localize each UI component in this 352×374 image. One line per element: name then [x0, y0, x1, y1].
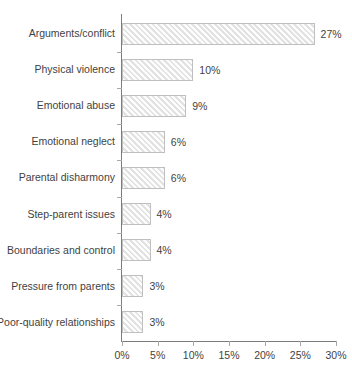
bar-value-label: 3% — [149, 311, 164, 333]
x-axis-tick-label: 30% — [325, 349, 346, 361]
x-axis-tick — [122, 341, 123, 346]
bar — [122, 95, 186, 117]
bar-container: 4% — [122, 203, 151, 225]
category-label: Pressure from parents — [11, 269, 115, 304]
category-label: Arguments/conflict — [29, 16, 115, 51]
x-axis-tick-label: 25% — [290, 349, 311, 361]
bar — [122, 59, 193, 81]
x-axis-tick — [193, 341, 194, 346]
y-axis-tick — [117, 52, 122, 53]
x-axis-tick-label: 20% — [254, 349, 275, 361]
y-axis-tick — [117, 305, 122, 306]
bar — [122, 167, 165, 189]
x-axis-tick — [265, 341, 266, 346]
bar-row: Parental disharmony6% — [122, 160, 336, 195]
category-label: Emotional abuse — [37, 88, 115, 123]
x-axis-tick-label: 5% — [150, 349, 165, 361]
plot-area: Arguments/conflict27%Physical violence10… — [122, 16, 336, 341]
x-axis-tick-label: 10% — [183, 349, 204, 361]
y-axis-tick — [117, 233, 122, 234]
x-axis-tick — [158, 341, 159, 346]
bar-value-label: 3% — [149, 275, 164, 297]
bar-container: 10% — [122, 59, 193, 81]
bar — [122, 239, 151, 261]
bar-value-label: 6% — [171, 131, 186, 153]
bar-value-label: 4% — [157, 239, 172, 261]
bar — [122, 131, 165, 153]
bar-value-label: 9% — [192, 95, 207, 117]
bar-row: Poor-quality relationships3% — [122, 305, 336, 340]
bar-row: Boundaries and control4% — [122, 233, 336, 268]
bar-container: 27% — [122, 23, 315, 45]
y-axis-tick — [117, 124, 122, 125]
category-label: Boundaries and control — [7, 233, 115, 268]
bar-container: 6% — [122, 131, 165, 153]
x-axis-tick — [336, 341, 337, 346]
bar-value-label: 6% — [171, 167, 186, 189]
y-axis-tick — [117, 160, 122, 161]
bar-chart: Arguments/conflict27%Physical violence10… — [0, 0, 352, 374]
category-label: Emotional neglect — [32, 124, 115, 159]
bar-row: Physical violence10% — [122, 52, 336, 87]
y-axis-tick — [117, 269, 122, 270]
bar-container: 4% — [122, 239, 151, 261]
bar-container: 3% — [122, 311, 143, 333]
bar — [122, 203, 151, 225]
y-axis-tick — [117, 88, 122, 89]
bar — [122, 275, 143, 297]
bar-value-label: 27% — [321, 23, 342, 45]
bar-row: Pressure from parents3% — [122, 269, 336, 304]
bar-value-label: 10% — [199, 59, 220, 81]
y-axis-tick — [117, 197, 122, 198]
x-axis-tick-label: 15% — [218, 349, 239, 361]
bar-container: 6% — [122, 167, 165, 189]
bar-value-label: 4% — [157, 203, 172, 225]
x-axis-tick-label: 0% — [114, 349, 129, 361]
bar — [122, 311, 143, 333]
bar-container: 9% — [122, 95, 186, 117]
bar-container: 3% — [122, 275, 143, 297]
category-label: Poor-quality relationships — [0, 305, 115, 340]
category-label: Step-parent issues — [27, 197, 115, 232]
bar-row: Arguments/conflict27% — [122, 16, 336, 51]
bar — [122, 23, 315, 45]
x-axis-tick — [229, 341, 230, 346]
bar-row: Step-parent issues4% — [122, 197, 336, 232]
category-label: Parental disharmony — [19, 160, 115, 195]
x-axis-tick — [300, 341, 301, 346]
bar-row: Emotional abuse9% — [122, 88, 336, 123]
category-label: Physical violence — [34, 52, 115, 87]
bar-row: Emotional neglect6% — [122, 124, 336, 159]
